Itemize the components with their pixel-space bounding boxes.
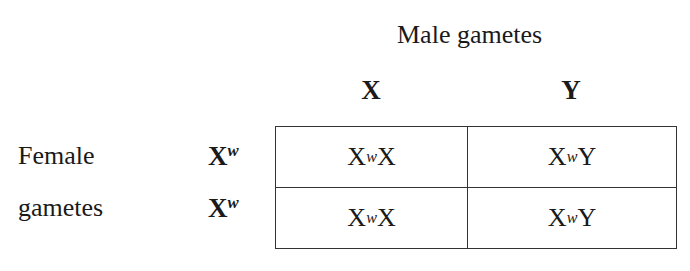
punnett-square-grid: XwX XwY XwX XwY <box>275 126 677 249</box>
column-header-y: Y <box>541 75 601 105</box>
row-header-xw-1: Xw <box>208 141 239 171</box>
cell-allele-2: X <box>377 203 396 233</box>
cell-allele-2: Y <box>577 203 596 233</box>
cell-r2-c1: XwX <box>276 188 468 248</box>
column-header-x: X <box>341 75 401 105</box>
cell-allele-1: X <box>548 142 567 172</box>
female-gametes-label-line2: gametes <box>18 193 103 223</box>
cell-r1-c2: XwY <box>468 127 676 188</box>
cell-allele-2: Y <box>577 142 596 172</box>
female-gametes-label-line1: Female <box>18 141 95 171</box>
cell-r1-c1: XwX <box>276 127 468 188</box>
row-header-superscript: w <box>228 193 239 212</box>
row-header-superscript: w <box>228 141 239 160</box>
cell-r2-c2: XwY <box>468 188 676 248</box>
cell-allele-2: X <box>377 142 396 172</box>
cell-allele-1: X <box>548 203 567 233</box>
row-header-xw-2: Xw <box>208 193 239 223</box>
cell-allele-1: X <box>347 142 366 172</box>
cell-allele-1: X <box>347 203 366 233</box>
male-gametes-title: Male gametes <box>397 20 542 50</box>
row-header-base: X <box>208 193 228 223</box>
row-header-base: X <box>208 141 228 171</box>
